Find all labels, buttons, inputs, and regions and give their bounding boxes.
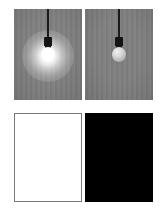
panel-swatch-white xyxy=(14,113,82,202)
bulb-socket-icon xyxy=(115,37,123,46)
bulb-glass-lit-icon xyxy=(41,47,55,62)
panel-swatch-black xyxy=(85,113,153,202)
bulb-socket-icon xyxy=(44,37,52,46)
figure-grid xyxy=(0,0,165,212)
bulb-glass-unlit-icon xyxy=(112,47,126,62)
bulb-cord-icon xyxy=(47,9,48,38)
panel-bulb-lit xyxy=(14,9,82,100)
panel-bulb-unlit xyxy=(85,9,153,100)
bulb-cord-icon xyxy=(118,9,119,38)
